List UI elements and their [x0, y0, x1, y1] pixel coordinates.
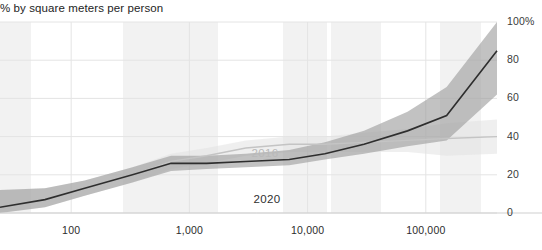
series-label-2020: 2020: [254, 193, 281, 205]
chart-plot-area: [0, 0, 542, 250]
y-axis-tick-label: 80: [507, 53, 519, 65]
y-axis-tick-label: 40: [507, 130, 519, 142]
y-axis-tick-label: 0: [507, 206, 513, 218]
chart-container: % by square meters per person 100%806040…: [0, 0, 542, 250]
y-axis-tick-label: 60: [507, 91, 519, 103]
x-axis-tick-label: 100,000: [406, 224, 445, 236]
series-label-2016: 2016: [252, 147, 279, 159]
x-axis-tick-label: 1,000: [176, 224, 203, 236]
y-axis-tick-label: 20: [507, 168, 519, 180]
confidence-band-2020: [0, 22, 497, 213]
x-axis-tick-label: 100: [62, 224, 80, 236]
y-axis-tick-label: 100%: [507, 15, 535, 27]
x-axis-tick-label: 10,000: [291, 224, 324, 236]
